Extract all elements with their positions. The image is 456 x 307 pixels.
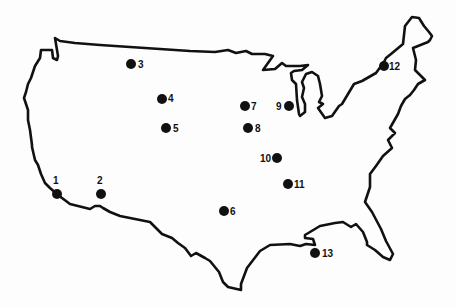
site-6-label: 6 <box>230 206 236 217</box>
site-3-label: 3 <box>138 59 144 70</box>
site-2-dot <box>96 189 106 199</box>
site-1-label: 1 <box>53 175 59 186</box>
site-13: 13 <box>310 248 334 259</box>
site-11-dot <box>283 179 293 189</box>
site-3-dot <box>126 59 136 69</box>
site-1-dot <box>52 189 62 199</box>
site-5: 5 <box>161 123 179 134</box>
site-7: 7 <box>240 101 257 112</box>
site-1: 1 <box>52 175 62 199</box>
site-7-dot <box>240 101 250 111</box>
us-map: 1 2 3 4 5 6 7 8 <box>0 0 456 307</box>
site-8-label: 8 <box>255 123 261 134</box>
site-9-dot <box>284 101 294 111</box>
site-11-label: 11 <box>294 179 305 190</box>
us-outline <box>24 17 432 290</box>
site-4: 4 <box>157 93 174 104</box>
site-10-label: 10 <box>260 153 272 164</box>
site-6-dot <box>219 206 229 216</box>
site-5-dot <box>161 123 171 133</box>
site-10-dot <box>272 153 282 163</box>
site-8: 8 <box>243 123 261 134</box>
site-9: 9 <box>276 101 294 112</box>
site-9-label: 9 <box>276 101 282 112</box>
site-3: 3 <box>126 59 144 70</box>
site-13-label: 13 <box>322 248 334 259</box>
site-6: 6 <box>219 206 236 217</box>
site-8-dot <box>243 123 253 133</box>
site-4-label: 4 <box>168 93 174 104</box>
site-2: 2 <box>96 175 106 199</box>
site-11: 11 <box>283 179 305 190</box>
site-12: 12 <box>379 61 401 72</box>
sites: 1 2 3 4 5 6 7 8 <box>52 59 401 259</box>
site-4-dot <box>157 94 167 104</box>
site-7-label: 7 <box>251 101 257 112</box>
site-12-label: 12 <box>389 61 401 72</box>
site-10: 10 <box>260 153 282 164</box>
site-5-label: 5 <box>173 123 179 134</box>
site-13-dot <box>310 248 320 258</box>
site-2-label: 2 <box>97 175 103 186</box>
site-12-dot <box>379 61 389 71</box>
